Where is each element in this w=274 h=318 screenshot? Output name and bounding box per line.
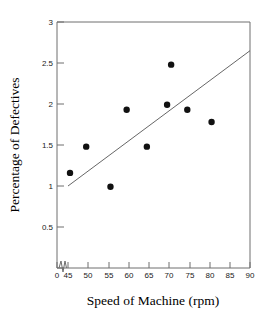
data-point xyxy=(123,107,129,113)
x-tick-label-3: 55 xyxy=(105,271,114,280)
chart-figure: 0.5 1 1.5 2 2.5 3 0 45 xyxy=(0,0,274,318)
trend-line xyxy=(68,51,250,186)
data-point xyxy=(208,119,214,125)
data-point xyxy=(83,143,89,149)
data-point xyxy=(164,102,170,108)
x-axis-tick-labels: 0 45 50 55 60 65 70 75 80 85 90 xyxy=(55,271,255,280)
data-point xyxy=(144,143,150,149)
y-tick-label-2: 1.5 xyxy=(42,141,54,150)
y-tick-label-4: 2.5 xyxy=(42,59,54,68)
x-tick-label-7: 75 xyxy=(186,271,195,280)
y-tick-label-3: 2 xyxy=(49,100,54,109)
data-point xyxy=(67,170,73,176)
x-tick-label-1: 45 xyxy=(64,271,73,280)
x-tick-label-8: 80 xyxy=(206,271,215,280)
x-axis-title: Speed of Machine (rpm) xyxy=(87,293,219,308)
y-axis-title: Percentage of Defectives xyxy=(7,78,22,213)
x-tick-label-10: 90 xyxy=(246,271,255,280)
x-tick-label-6: 70 xyxy=(165,271,174,280)
data-point xyxy=(107,184,113,190)
data-point xyxy=(184,107,190,113)
x-axis-ticks xyxy=(57,262,250,268)
x-tick-label-9: 85 xyxy=(226,271,235,280)
y-tick-label-0: 0.5 xyxy=(42,223,54,232)
trend-line-group xyxy=(68,51,250,186)
y-axis-ticks xyxy=(57,22,64,268)
x-tick-label-5: 65 xyxy=(145,271,154,280)
y-tick-label-5: 3 xyxy=(49,18,54,27)
y-tick-label-1: 1 xyxy=(49,182,54,191)
x-tick-label-0: 0 xyxy=(55,271,60,280)
x-tick-label-4: 60 xyxy=(125,271,134,280)
scatter-plot: 0.5 1 1.5 2 2.5 3 0 45 xyxy=(0,0,274,318)
data-point xyxy=(168,61,174,67)
x-tick-label-2: 50 xyxy=(84,271,93,280)
y-axis-tick-labels: 0.5 1 1.5 2 2.5 3 xyxy=(42,18,54,232)
